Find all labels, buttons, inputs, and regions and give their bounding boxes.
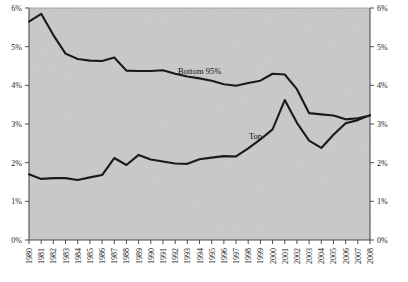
y-axis-left-tick-label: 6%	[11, 4, 22, 13]
x-axis-tick-label: 1987	[110, 248, 119, 264]
y-axis-left-tick-label: 0%	[11, 236, 22, 245]
x-axis-tick-label: 2002	[293, 248, 302, 264]
x-axis-tick-label: 1988	[122, 248, 131, 264]
x-axis-tick-label: 1998	[244, 248, 253, 264]
y-axis-right-tick-label: 6%	[377, 4, 388, 13]
x-axis-tick-label: 1981	[37, 248, 46, 264]
x-axis-tick-label: 1991	[159, 248, 168, 264]
x-axis-tick-label: 2001	[281, 248, 290, 264]
x-axis-tick-label: 2003	[305, 248, 314, 264]
x-axis-tick-label: 1982	[49, 248, 58, 264]
y-axis-left-tick-label: 5%	[11, 43, 22, 52]
line-chart: 0%1%2%3%4%5%6% 0%1%2%3%4%5%6% 1980198119…	[0, 0, 408, 282]
x-axis-tick-label: 1990	[147, 248, 156, 264]
y-axis-right-tick-label: 4%	[377, 81, 388, 90]
plot-background-texture	[29, 8, 370, 240]
x-axis-tick-label: 2007	[354, 248, 363, 264]
x-axis-tick-label: 1984	[74, 248, 83, 264]
chart-figure: 0%1%2%3%4%5%6% 0%1%2%3%4%5%6% 1980198119…	[0, 0, 408, 282]
x-axis-tick-label: 1985	[86, 248, 95, 264]
x-axis-tick-label: 1993	[183, 248, 192, 264]
x-axis-tick-label: 1983	[62, 248, 71, 264]
x-axis-tick-label: 1986	[98, 248, 107, 264]
y-axis-left-tick-label: 1%	[11, 197, 22, 206]
x-axis-tick-label: 1996	[220, 248, 229, 264]
x-axis-tick-label: 1992	[171, 248, 180, 264]
y-axis-right-tick-label: 1%	[377, 197, 388, 206]
y-axis-left-tick-label: 2%	[11, 159, 22, 168]
x-axis-tick-label: 2000	[269, 248, 278, 264]
x-axis-tick-label: 1989	[135, 248, 144, 264]
series-label-bottom-95: Bottom 95%	[178, 66, 221, 76]
y-axis-right-tick-label: 3%	[377, 120, 388, 129]
x-axis-tick-label: 1980	[25, 248, 34, 264]
series-label-top: Top	[249, 131, 262, 141]
x-axis-tick-label: 1995	[208, 248, 217, 264]
y-axis-right-tick-label: 5%	[377, 43, 388, 52]
x-axis-tick-label: 1994	[196, 248, 205, 264]
y-axis-left-tick-label: 3%	[11, 120, 22, 129]
y-axis-right-tick-label: 2%	[377, 159, 388, 168]
x-axis-tick-label: 2008	[366, 248, 375, 264]
x-axis-tick-label: 2005	[329, 248, 338, 264]
x-axis-tick-label: 1997	[232, 248, 241, 264]
x-axis-tick-label: 1999	[256, 248, 265, 264]
plot-area	[29, 8, 370, 240]
x-axis-tick-label: 2006	[342, 248, 351, 264]
x-axis-tick-label: 2004	[317, 248, 326, 264]
y-axis-right-tick-label: 0%	[377, 236, 388, 245]
y-axis-left-tick-label: 4%	[11, 81, 22, 90]
